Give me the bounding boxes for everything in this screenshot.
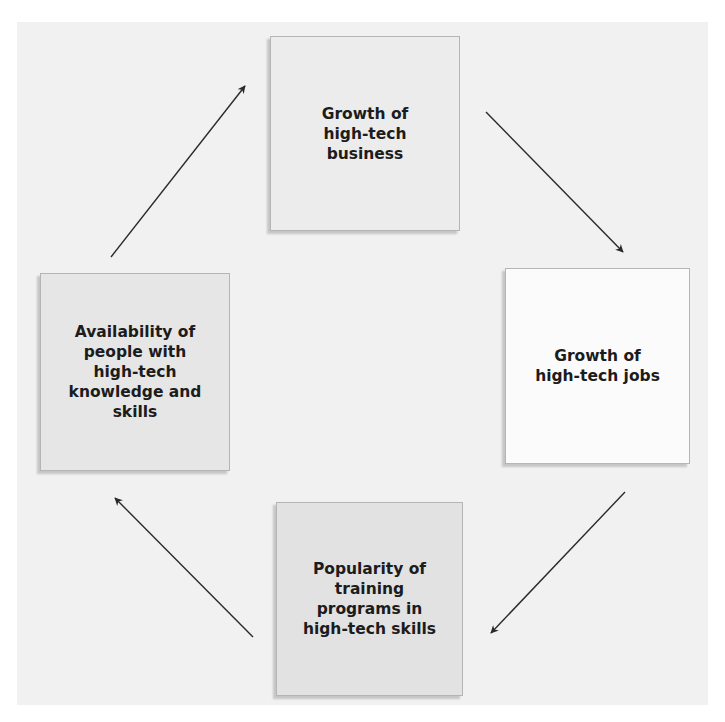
node-text-line: people with bbox=[69, 342, 202, 362]
node-text-line: Growth of bbox=[322, 104, 409, 124]
node-text-line: Growth of bbox=[535, 346, 660, 366]
node-text-line: business bbox=[322, 144, 409, 164]
node-text-line: knowledge and bbox=[69, 382, 202, 402]
node-text-line: training bbox=[303, 579, 436, 599]
node-availability-of-people: Availability of people with high-tech kn… bbox=[40, 273, 230, 471]
node-growth-of-high-tech-jobs: Growth of high-tech jobs bbox=[505, 268, 690, 464]
node-text-line: programs in bbox=[303, 599, 436, 619]
node-text-line: high-tech skills bbox=[303, 619, 436, 639]
node-text-line: Availability of bbox=[69, 322, 202, 342]
node-growth-of-high-tech-business: Growth of high-tech business bbox=[270, 36, 460, 231]
node-text-line: high-tech bbox=[69, 362, 202, 382]
node-text-line: high-tech jobs bbox=[535, 366, 660, 386]
node-text-line: skills bbox=[69, 402, 202, 422]
node-text-line: high-tech bbox=[322, 124, 409, 144]
node-text-line: Popularity of bbox=[303, 559, 436, 579]
node-popularity-of-training-programs: Popularity of training programs in high-… bbox=[276, 502, 463, 696]
